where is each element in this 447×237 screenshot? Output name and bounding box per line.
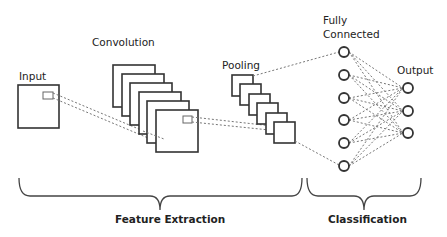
fully-connected-to-output-connections [349, 52, 403, 166]
fully-connected-nodes [339, 47, 349, 171]
output-nodes [403, 83, 413, 138]
fully-connected-label-line1: Fully [323, 14, 347, 26]
input-feature-map [18, 85, 59, 128]
output-label: Output [397, 64, 433, 76]
convolution-feature-maps [113, 65, 198, 152]
diagram-graphics: .box { fill: #fff; stroke: #333; stroke-… [0, 0, 447, 237]
convolution-label: Convolution [92, 36, 155, 48]
pooling-label: Pooling [222, 59, 260, 71]
classification-label: Classification [328, 213, 407, 225]
input-label: Input [19, 70, 46, 82]
feature-extraction-label: Feature Extraction [115, 213, 225, 225]
feature-extraction-brace [19, 178, 302, 210]
cnn-diagram: .box { fill: #fff; stroke: #333; stroke-… [0, 0, 447, 237]
classification-brace [307, 178, 421, 210]
fully-connected-label-line2: Connected [323, 28, 380, 40]
pooling-feature-maps [232, 75, 295, 143]
